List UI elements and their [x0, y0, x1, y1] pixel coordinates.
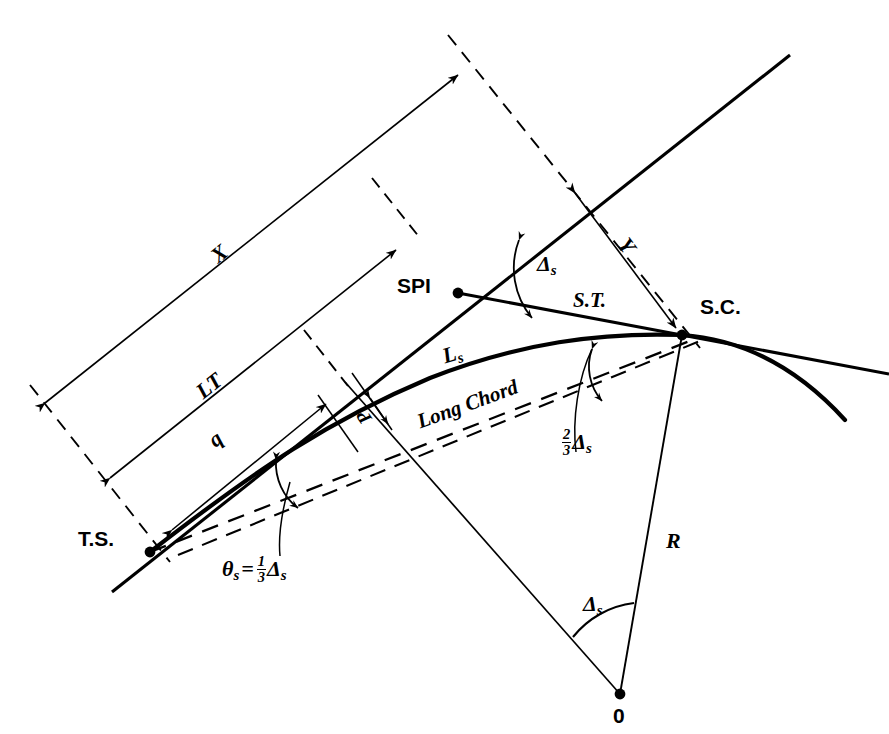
- diagram-canvas: T.S. SPI S.C. 0 S.T. X LT q Y P R Ls Lon…: [0, 0, 889, 734]
- point-marker-sc: [677, 330, 688, 341]
- spiral-curve-diagram: [0, 0, 889, 734]
- label-ts: T.S.: [78, 528, 114, 549]
- label-delta-s-at-spi: Δs: [537, 253, 557, 278]
- circular-curve: [682, 335, 845, 420]
- radius-line-r: [620, 335, 682, 694]
- fraction-denominator-3: 3: [562, 443, 571, 458]
- delta-glyph-theta: Δ: [267, 556, 281, 581]
- fraction-numerator-2: 2: [562, 427, 571, 443]
- fraction-two-thirds: 2 3: [562, 427, 571, 458]
- label-center-o: 0: [613, 705, 625, 726]
- delta-glyph-center: Δ: [583, 591, 597, 616]
- equals-glyph: =: [241, 556, 254, 581]
- label-delta-s-at-center: Δs: [583, 593, 603, 618]
- point-marker-spi: [453, 288, 464, 299]
- fraction-denominator-3b: 3: [257, 570, 266, 585]
- label-spi: SPI: [397, 275, 431, 296]
- main-tangent-line: [112, 55, 790, 592]
- long-chord-line: [150, 337, 700, 552]
- spiral-curve-ls: [150, 335, 682, 552]
- delta-sub-center: s: [597, 602, 603, 618]
- delta-glyph-spi: Δ: [537, 251, 551, 276]
- delta-glyph-st: Δ: [572, 429, 586, 454]
- q-dimension-line: [172, 404, 326, 530]
- fraction-one-third: 1 3: [257, 554, 266, 585]
- point-marker-ts: [145, 547, 156, 558]
- theta-sub: s: [233, 567, 239, 583]
- label-st-text: S.T.: [573, 288, 606, 312]
- theta-glyph: θ: [222, 556, 233, 581]
- label-two-thirds-delta-s: 2 3 Δs: [561, 427, 592, 458]
- label-r-text: R: [666, 528, 681, 553]
- fraction-numerator-1: 1: [257, 554, 266, 570]
- q-dimension-end-tick: [304, 330, 348, 386]
- label-theta-s-equation: θs= 1 3 Δs: [222, 554, 287, 585]
- label-r-dimension: R: [666, 530, 681, 552]
- label-st: S.T.: [573, 290, 606, 311]
- x-dimension-line: [45, 75, 458, 403]
- delta-sub-theta: s: [281, 567, 287, 583]
- point-marker-center: [615, 689, 626, 700]
- delta-sub-st: s: [586, 440, 592, 456]
- delta-sub-spi: s: [551, 262, 557, 278]
- lt-dimension-end-tick: [372, 178, 420, 238]
- theta-s-arc: [276, 460, 298, 556]
- label-sc: S.C.: [700, 296, 741, 317]
